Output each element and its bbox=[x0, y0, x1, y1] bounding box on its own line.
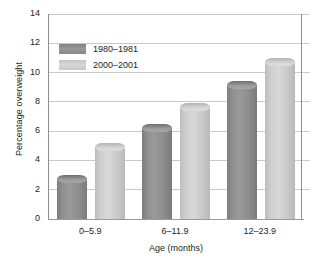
bar-body bbox=[57, 179, 87, 219]
bar bbox=[57, 175, 87, 219]
y-axis-tick-label: 4 bbox=[0, 154, 40, 164]
y-axis-tick-label: 2 bbox=[0, 184, 40, 194]
y-axis-tick-label: 12 bbox=[0, 37, 40, 47]
bar bbox=[227, 81, 257, 219]
legend-item: 2000–2001 bbox=[59, 58, 138, 71]
bar-top-cap bbox=[265, 58, 295, 66]
x-axis-tick-label: 12–23.9 bbox=[205, 226, 315, 236]
bar-body bbox=[142, 128, 172, 219]
bar-body bbox=[180, 107, 210, 219]
y-axis-tick-label: 10 bbox=[0, 67, 40, 77]
bar bbox=[95, 143, 125, 219]
bar bbox=[265, 58, 295, 219]
x-axis-title: Age (months) bbox=[48, 243, 304, 253]
y-axis-tick-label: 0 bbox=[0, 213, 40, 223]
legend-item-label: 2000–2001 bbox=[93, 60, 138, 70]
bar bbox=[180, 103, 210, 219]
bar-chart: Percentage overweight 02468101214 0–5.96… bbox=[0, 0, 319, 266]
bar-top-cap bbox=[227, 81, 257, 89]
bar-top-cap bbox=[180, 103, 210, 111]
dark-gray-swatch-icon bbox=[59, 44, 86, 54]
y-axis-title: Percentage overweight bbox=[14, 24, 24, 194]
bar-body bbox=[265, 62, 295, 219]
bar-top-cap bbox=[142, 124, 172, 132]
x-axis-line bbox=[48, 219, 304, 220]
bar-body bbox=[95, 147, 125, 219]
bar-top-cap bbox=[57, 175, 87, 183]
bar bbox=[142, 124, 172, 219]
light-gray-swatch-icon bbox=[59, 60, 86, 70]
legend: 1980–1981 2000–2001 bbox=[59, 42, 138, 74]
y-axis-tick-label: 6 bbox=[0, 125, 40, 135]
y-axis-tick-label: 14 bbox=[0, 8, 40, 18]
bar-body bbox=[227, 85, 257, 219]
bar-top-cap bbox=[95, 143, 125, 151]
legend-item: 1980–1981 bbox=[59, 42, 138, 55]
legend-item-label: 1980–1981 bbox=[93, 44, 138, 54]
y-axis-tick-label: 8 bbox=[0, 96, 40, 106]
